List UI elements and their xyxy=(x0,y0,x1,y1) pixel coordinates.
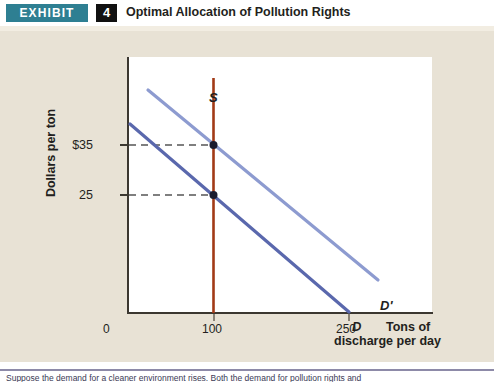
x-axis-title-line1: Tons of xyxy=(386,320,430,334)
x-tick-mark-250 xyxy=(348,314,350,321)
caption-text: Suppose the demand for a cleaner environ… xyxy=(6,373,492,382)
panel-top-edge xyxy=(0,26,494,31)
y-axis-title: Dollars per ton xyxy=(44,93,58,213)
exhibit-number-badge: 4 xyxy=(96,4,117,22)
curve-label-s: S xyxy=(209,90,218,105)
x-tick-label-0: 0 xyxy=(103,322,110,336)
x-tick-mark-100 xyxy=(213,314,215,321)
curve-label-d: D xyxy=(352,319,361,334)
y-tick-label-35: $35 xyxy=(72,138,93,152)
figure-panel: $35 25 0 100 250 Dollars per ton Tons of… xyxy=(0,26,494,362)
y-axis-line xyxy=(127,57,129,314)
y-tick-mark-25 xyxy=(120,194,129,196)
caption-strip: Suppose the demand for a cleaner environ… xyxy=(0,362,494,382)
x-axis-title-line2: discharge per day xyxy=(334,334,494,348)
exhibit-figure-page: EXHIBIT 4 Optimal Allocation of Pollutio… xyxy=(0,0,494,382)
y-tick-label-25: 25 xyxy=(79,188,93,202)
plot-area xyxy=(127,57,432,313)
x-axis-title: Tons of discharge per day xyxy=(386,320,494,348)
page-title: Optimal Allocation of Pollution Rights xyxy=(126,5,351,19)
caption-divider xyxy=(0,369,494,371)
curve-label-d-prime: D' xyxy=(380,298,392,313)
y-tick-mark-35 xyxy=(120,144,129,146)
x-tick-label-100: 100 xyxy=(202,322,222,336)
exhibit-badge: EXHIBIT xyxy=(6,4,88,22)
exhibit-header: EXHIBIT 4 Optimal Allocation of Pollutio… xyxy=(0,0,494,26)
